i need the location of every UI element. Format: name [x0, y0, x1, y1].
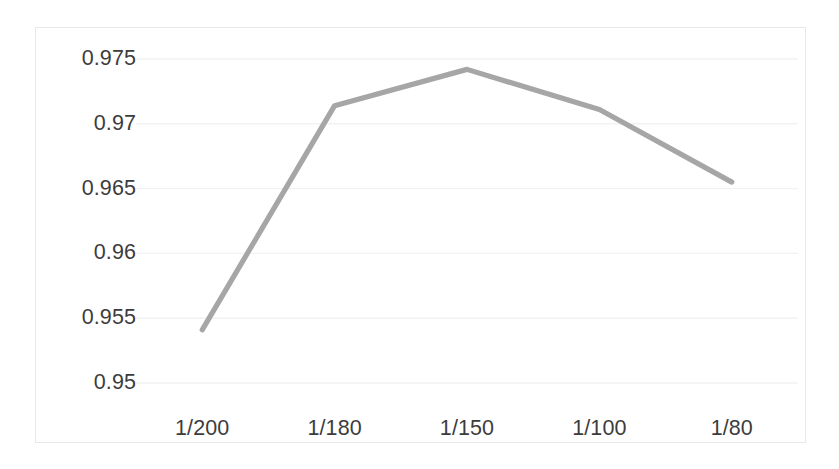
- x-axis-tick-label: 1/180: [307, 418, 361, 440]
- x-axis-tick-label: 1/150: [440, 418, 494, 440]
- x-axis-tick-labels: 1/2001/1801/1501/1001/80: [36, 28, 807, 444]
- x-axis-tick-label: 1/100: [572, 418, 626, 440]
- chart-figure: 0.950.9550.960.9650.970.975 1/2001/1801/…: [35, 27, 806, 443]
- x-axis-tick-label: 1/200: [175, 418, 229, 440]
- x-axis-tick-label: 1/80: [711, 418, 753, 440]
